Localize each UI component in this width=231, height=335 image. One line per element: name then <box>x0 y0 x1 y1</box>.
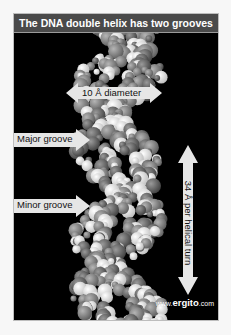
watermark-suffix: .com <box>199 300 214 307</box>
major-groove-label: Major groove <box>17 133 72 144</box>
watermark-prefix: www. <box>156 300 173 307</box>
dna-illustration: 10 Å diameter Major groove Minor groove … <box>14 33 218 321</box>
helical-turn-label: 34 Å per helical turn <box>183 181 194 266</box>
figure-title: The DNA double helix has two grooves <box>14 14 218 33</box>
diameter-label: 10 Å diameter <box>82 87 141 98</box>
minor-groove-label: Minor groove <box>17 199 72 210</box>
helical-turn-label-wrap: 34 Å per helical turn <box>180 163 196 283</box>
watermark-brand: ergito <box>172 297 198 308</box>
figure-frame: The DNA double helix has two grooves <box>13 13 219 321</box>
watermark: www.ergito.com <box>156 297 214 308</box>
